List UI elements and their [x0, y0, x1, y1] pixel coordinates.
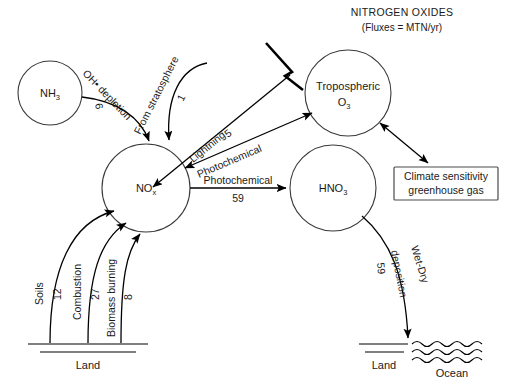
label-photochemical-hno3-value: 59 [232, 192, 244, 204]
arrow-o3-climate [380, 123, 428, 163]
node-tropospheric-o3-label-line1: Tropospheric [316, 80, 380, 92]
label-oh-depletion: OH• depletion 6 [81, 67, 135, 122]
label-oh-depletion-text: OH• depletion [81, 67, 135, 122]
label-soils-value: 12 [51, 288, 63, 300]
label-ocean: Ocean [436, 367, 468, 379]
node-tropospheric-o3-circle [305, 50, 391, 136]
node-hno3-subscript: 3 [343, 188, 347, 197]
climate-box-line2: greenhouse gas [408, 184, 483, 196]
diagram-canvas: NITROGEN OXIDES (Fluxes = MTN/yr) NH3 NO… [0, 0, 505, 387]
label-combustion: Combustion 27 [71, 264, 101, 320]
lightning-bolt-icon [266, 43, 303, 90]
arrow-from-stratosphere [169, 63, 207, 140]
diagram-title: NITROGEN OXIDES [351, 6, 454, 18]
label-combustion-value: 27 [89, 288, 101, 300]
label-wet-dry-value: 59 [375, 262, 388, 275]
node-nh3-subscript: 3 [56, 93, 60, 102]
ground-left [28, 344, 148, 352]
label-wet-dry-deposition: Wet-Dry deposition 59 [375, 244, 432, 298]
label-from-stratosphere-value: 1 [174, 92, 187, 103]
label-soils-text: Soils [33, 282, 45, 305]
label-oh-depletion-value: 6 [93, 102, 106, 110]
node-nh3-text: NH [40, 87, 56, 99]
label-biomass-text: Biomass burning [105, 259, 117, 337]
nitrogen-oxides-diagram: NITROGEN OXIDES (Fluxes = MTN/yr) NH3 NO… [0, 0, 505, 387]
label-biomass-value: 8 [122, 294, 134, 300]
label-combustion-text: Combustion [71, 264, 83, 320]
label-photochemical-hno3-text: Photochemical [204, 174, 273, 186]
label-wet-dry-line1: Wet-Dry [409, 244, 432, 285]
node-nox-text: NO [136, 182, 153, 194]
ocean-waves-icon [412, 342, 482, 363]
node-nox-subscript: x [152, 188, 156, 197]
node-o3-subscript: 3 [346, 102, 350, 111]
label-soils: Soils 12 [33, 282, 63, 305]
arrow-biomass-burning [121, 234, 140, 343]
node-hno3-text: HNO [319, 182, 344, 194]
label-biomass-burning: Biomass burning 8 [105, 259, 134, 337]
label-land-right: Land [372, 359, 396, 371]
label-from-stratosphere: From stratosphere 1 [131, 54, 187, 136]
diagram-subtitle: (Fluxes = MTN/yr) [362, 22, 442, 33]
label-land-left: Land [76, 359, 100, 371]
label-wet-dry-line2: deposition [389, 249, 410, 298]
ground-right [359, 344, 408, 352]
climate-box-line1: Climate sensitivity [404, 170, 489, 182]
